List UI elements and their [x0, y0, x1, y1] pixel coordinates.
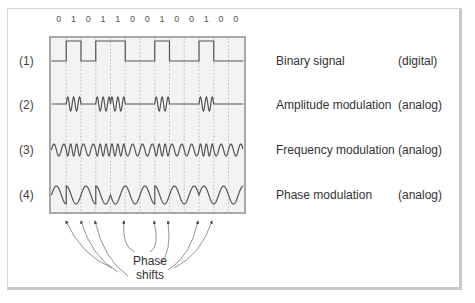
row-index-4: (4): [19, 188, 34, 202]
label-frequency-modulation: Frequency modulation: [276, 143, 395, 157]
phase-shifts-line1: Phase: [120, 254, 180, 268]
row-index-3: (3): [19, 143, 34, 157]
bit-label: 0: [83, 14, 93, 24]
bit-label: 1: [113, 14, 123, 24]
phase-shifts-line2: shifts: [120, 268, 180, 282]
bit-label: 0: [142, 14, 152, 24]
bit-label: 0: [54, 14, 64, 24]
bit-label: 1: [98, 14, 108, 24]
label-amplitude-modulation: Amplitude modulation: [276, 98, 391, 112]
bit-label: 1: [201, 14, 211, 24]
type-phase-modulation: (analog): [398, 188, 442, 202]
bit-label: 0: [231, 14, 241, 24]
bit-label: 1: [157, 14, 167, 24]
bit-label: 0: [216, 14, 226, 24]
label-phase-modulation: Phase modulation: [276, 188, 372, 202]
bit-label: 0: [187, 14, 197, 24]
label-binary-signal: Binary signal: [276, 54, 345, 68]
row-index-1: (1): [19, 54, 34, 68]
phase-shifts-annotation: Phase shifts: [120, 254, 180, 282]
bit-label: 0: [172, 14, 182, 24]
type-amplitude-modulation: (analog): [398, 98, 442, 112]
type-binary-signal: (digital): [398, 54, 437, 68]
chart-box: [50, 37, 245, 213]
bit-label: 1: [69, 14, 79, 24]
bit-label: 0: [128, 14, 138, 24]
row-index-2: (2): [19, 98, 34, 112]
type-frequency-modulation: (analog): [398, 143, 442, 157]
